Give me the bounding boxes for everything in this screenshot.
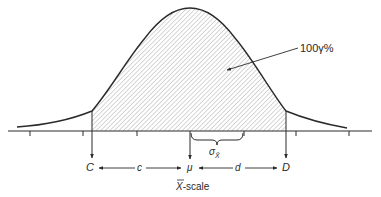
axis-label: X-scale — [175, 181, 210, 192]
c-distance-label: c — [137, 162, 142, 173]
sigma-label: σX̄ — [209, 146, 220, 159]
mean-label: μ — [186, 162, 193, 173]
sigma-brace — [191, 133, 243, 145]
shaded-confidence-region — [92, 8, 286, 131]
lower-limit-label: C — [86, 161, 94, 173]
upper-limit-label: D — [282, 161, 290, 173]
d-distance-label: d — [235, 162, 241, 173]
normal-curve-diagram: σX̄ C μ D c d X-scale 100γ% — [0, 0, 381, 197]
shaded-region-label: 100γ% — [300, 42, 334, 54]
